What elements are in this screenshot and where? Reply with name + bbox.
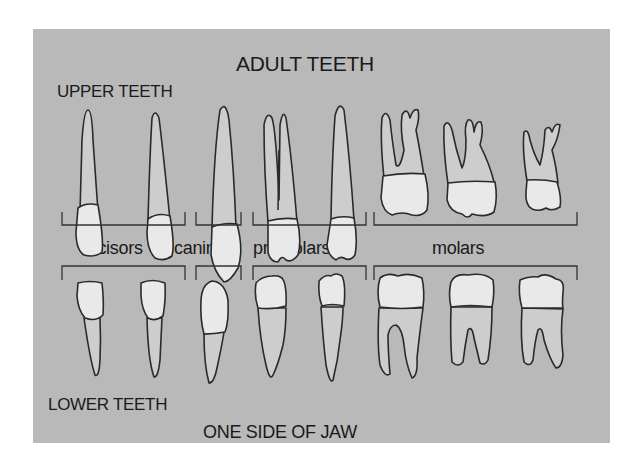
teeth-illustration xyxy=(0,0,641,470)
lower-molar-2 xyxy=(450,274,494,365)
lower-premolar-1 xyxy=(255,276,286,377)
lower-premolar-2 xyxy=(319,274,345,381)
upper-molar-2 xyxy=(444,120,496,217)
lower-canine xyxy=(201,281,228,383)
upper-molar-3 xyxy=(523,124,560,210)
upper-incisor-2 xyxy=(147,113,173,260)
upper-brackets xyxy=(62,212,577,225)
lower-brackets xyxy=(62,266,577,280)
upper-premolar-2 xyxy=(327,106,356,260)
lower-incisor-1 xyxy=(77,282,103,376)
upper-incisor-1 xyxy=(76,110,103,256)
lower-incisor-2 xyxy=(141,281,165,378)
lower-molar-1 xyxy=(378,274,424,378)
upper-molar-1 xyxy=(381,110,428,216)
upper-canine xyxy=(211,107,241,282)
upper-premolar-1 xyxy=(264,114,300,262)
lower-molar-3 xyxy=(519,275,563,368)
